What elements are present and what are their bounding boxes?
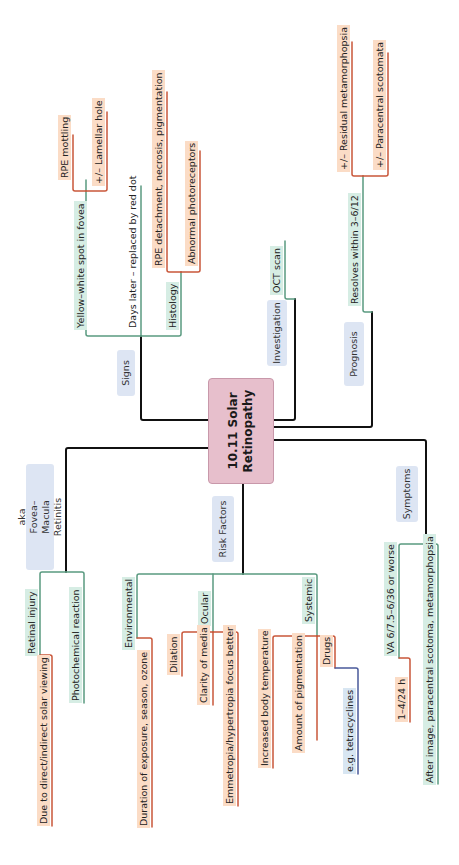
definition-photochemical-reaction[interactable]: Photochemical reaction [69, 587, 82, 703]
risk-drugs[interactable]: Drugs [320, 635, 333, 667]
central-topic-node[interactable]: 10.11 Solar Retinopathy [208, 378, 274, 484]
risk-emmetropia[interactable]: Emmetropia/hypertropia focus better [223, 625, 236, 806]
sign-histology[interactable]: Histology [166, 282, 179, 330]
risk-environmental[interactable]: Environmental [122, 577, 135, 650]
category-investigation[interactable]: Investigation [267, 300, 287, 366]
sign-abnormal-photoreceptors[interactable]: Abnormal photoreceptors [185, 141, 198, 266]
alias-note: aka Fovea–Macula Retinitis [26, 464, 54, 570]
investigation-oct-scan[interactable]: OCT scan [270, 246, 283, 295]
risk-dilation[interactable]: Dilation [167, 634, 180, 675]
symptom-after-image[interactable]: After image, paracentral scotoma, metamo… [423, 534, 436, 785]
symptom-visual-acuity[interactable]: VA 6/7.5–6/36 or worse [384, 542, 397, 656]
definition-retinal-injury[interactable]: Retinal injury [25, 589, 38, 656]
risk-duration-of-exposure[interactable]: Duration of exposure, season, ozone [137, 650, 150, 828]
risk-systemic[interactable]: Systemic [302, 577, 315, 624]
sign-rpe-detachment[interactable]: RPE detachment, necrosis, pigmentation [152, 70, 165, 268]
sign-lamellar-hole[interactable]: +/– Lamellar hole [92, 99, 105, 187]
prognosis-paracentral-scotomata[interactable]: +/– Paracentral scotomata [373, 40, 386, 170]
central-topic-title: 10.11 Solar Retinopathy [226, 390, 256, 473]
risk-clarity-of-media[interactable]: Clarity of media [197, 625, 210, 705]
category-signs[interactable]: Signs [117, 350, 135, 396]
prognosis-resolves[interactable]: Resolves within 3–6/12 [348, 193, 361, 306]
risk-body-temperature[interactable]: Increased body temperature [258, 629, 271, 768]
symptom-onset[interactable]: 1–4/24 h [395, 677, 408, 722]
category-risk-factors[interactable]: Risk Factors [212, 496, 234, 562]
prognosis-residual-metamorphopsia[interactable]: +/– Residual metamorphopsia [337, 25, 350, 172]
risk-pigmentation[interactable]: Amount of pigmentation [292, 633, 305, 753]
definition-due-to-solar-viewing[interactable]: Due to direct/indirect solar viewing [37, 655, 50, 826]
category-prognosis[interactable]: Prognosis [344, 322, 364, 386]
risk-ocular[interactable]: Ocular [198, 591, 211, 626]
sign-rpe-mottling[interactable]: RPE mottling [58, 115, 71, 180]
sign-yellow-white-spot[interactable]: Yellow–white spot in fovea [74, 201, 87, 330]
risk-tetracyclines[interactable]: e.g. tetracyclines [343, 688, 356, 774]
category-symptoms[interactable]: Symptoms [396, 466, 418, 522]
sign-days-later[interactable]: Days later – replaced by red dot [126, 174, 139, 330]
